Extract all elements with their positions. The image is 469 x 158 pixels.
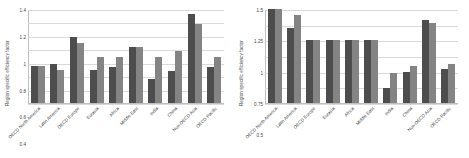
x-label-cell: Latin America bbox=[48, 106, 68, 156]
bar-group bbox=[48, 10, 68, 103]
right-x-axis-labels: OECD North AmericaLatin AmericaOECD Euro… bbox=[265, 106, 458, 156]
bar bbox=[109, 67, 116, 103]
x-label-cell: Eurasia bbox=[323, 106, 342, 156]
bar-group bbox=[284, 10, 303, 103]
x-label-cell: OECD Europe bbox=[304, 106, 323, 156]
bar bbox=[383, 88, 390, 103]
bar bbox=[275, 9, 282, 103]
x-label-cell: OECD Europe bbox=[67, 106, 87, 156]
x-axis-tick-label: Eurasia bbox=[86, 106, 101, 121]
y-axis-tick-label: 0.75 bbox=[254, 102, 263, 107]
bar-group bbox=[323, 10, 342, 103]
bar bbox=[268, 9, 275, 103]
bar bbox=[195, 24, 202, 103]
x-label-cell: Eurasia bbox=[87, 106, 107, 156]
bar-group bbox=[165, 10, 185, 103]
bar-group bbox=[381, 10, 400, 103]
x-label-cell: OECD North America bbox=[28, 106, 48, 156]
bar bbox=[441, 69, 448, 103]
bar bbox=[313, 40, 320, 103]
bar-group bbox=[204, 10, 224, 103]
x-label-cell: India bbox=[381, 106, 400, 156]
bar-group bbox=[400, 10, 419, 103]
x-label-cell: OECD Pacific bbox=[204, 106, 224, 156]
bar bbox=[155, 57, 162, 103]
x-label-cell: India bbox=[146, 106, 166, 156]
bar bbox=[148, 79, 155, 103]
bar-group bbox=[106, 10, 126, 103]
y-axis-tick-label: 1.4 bbox=[20, 8, 26, 13]
x-label-cell: Africa bbox=[342, 106, 361, 156]
bar bbox=[345, 40, 352, 103]
y-axis-tick-label: 1 bbox=[23, 61, 26, 66]
bar bbox=[326, 40, 333, 103]
x-axis-tick-label: India bbox=[148, 106, 159, 117]
left-plot-area: 00.20.40.60.811.21.4 bbox=[28, 10, 224, 104]
bar bbox=[77, 43, 84, 103]
bar-group bbox=[419, 10, 438, 103]
bar bbox=[390, 73, 397, 103]
bar bbox=[371, 40, 378, 103]
x-axis-tick-label: India bbox=[384, 106, 395, 117]
bar bbox=[287, 28, 294, 103]
bar-group bbox=[265, 10, 284, 103]
x-label-cell: Africa bbox=[106, 106, 126, 156]
bar bbox=[294, 15, 301, 103]
x-label-cell: OECD Pacific bbox=[439, 106, 458, 156]
bar bbox=[207, 67, 214, 103]
bar-group bbox=[146, 10, 166, 103]
bar bbox=[364, 40, 371, 103]
bar bbox=[410, 66, 417, 103]
x-label-cell: OECD North America bbox=[265, 106, 284, 156]
bar-group bbox=[28, 10, 48, 103]
x-axis-tick-label: OECD North America bbox=[8, 106, 42, 140]
x-label-cell: Middle East bbox=[126, 106, 146, 156]
two-panel-bar-chart-figure: Region specific efficiency factor 00.20.… bbox=[0, 0, 469, 158]
bar-group bbox=[87, 10, 107, 103]
left-bar-groups bbox=[28, 10, 224, 103]
x-axis-tick-label: Eurasia bbox=[322, 106, 337, 121]
bar bbox=[168, 71, 175, 103]
bar bbox=[70, 37, 77, 103]
left-chart-panel: Region specific efficiency factor 00.20.… bbox=[0, 0, 234, 158]
bar bbox=[129, 47, 136, 103]
bar bbox=[38, 66, 45, 103]
x-axis-tick-label: China bbox=[401, 106, 414, 119]
bar-group bbox=[67, 10, 87, 103]
bar bbox=[50, 64, 57, 103]
bar-group bbox=[304, 10, 323, 103]
right-plot-area: 00.250.50.7511.251.5 bbox=[265, 10, 458, 104]
right-bar-groups bbox=[265, 10, 458, 103]
bar bbox=[306, 40, 313, 103]
y-axis-tick-label: 0.4 bbox=[20, 142, 26, 147]
y-axis-tick-label: 1.2 bbox=[20, 34, 26, 39]
bar bbox=[175, 51, 182, 103]
x-axis-tick-label: Africa bbox=[108, 106, 120, 118]
x-label-cell: Latin America bbox=[284, 106, 303, 156]
x-axis-tick-label: Africa bbox=[344, 106, 356, 118]
y-axis-tick-label: 1.5 bbox=[257, 8, 263, 13]
y-axis-tick-label: 0.8 bbox=[20, 88, 26, 93]
bar-group bbox=[361, 10, 380, 103]
y-axis-tick-label: 1.25 bbox=[254, 39, 263, 44]
bar bbox=[333, 40, 340, 103]
bar bbox=[188, 14, 195, 103]
y-axis-tick-label: 0.5 bbox=[257, 133, 263, 138]
bar-group bbox=[126, 10, 146, 103]
bar bbox=[31, 66, 38, 103]
y-axis-tick-label: 1 bbox=[260, 70, 263, 75]
bar-group bbox=[439, 10, 458, 103]
bar bbox=[97, 57, 104, 103]
bar bbox=[429, 23, 436, 103]
left-y-axis-title: Region specific efficiency factor bbox=[2, 10, 13, 106]
left-x-axis-labels: OECD North AmericaLatin AmericaOECD Euro… bbox=[28, 106, 224, 156]
bar bbox=[422, 20, 429, 103]
bar-group bbox=[185, 10, 205, 103]
x-axis-tick-label: China bbox=[167, 106, 180, 119]
x-label-cell: Non-OECD Asia bbox=[419, 106, 438, 156]
bar bbox=[136, 47, 143, 103]
bar bbox=[90, 70, 97, 103]
x-label-cell: Non-OECD Asia bbox=[185, 106, 205, 156]
bar bbox=[116, 57, 123, 103]
bar-group bbox=[342, 10, 361, 103]
